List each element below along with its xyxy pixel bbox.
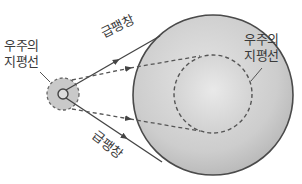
right-horizon-label-line2: 지평선 [244,48,279,64]
left-horizon-label-line2: 지평선 [4,54,39,70]
small-horizon-circle [47,78,79,110]
inner-horizon-circle [174,55,252,133]
inflation-diagram: 우주의 지평선 우주의 지평선 급팽창 급팽창 [0,0,302,184]
right-horizon-label-line1: 우주의 [244,32,279,48]
left-horizon-label-line1: 우주의 [4,38,39,54]
right-horizon-label: 우주의 지평선 [244,32,279,64]
diagram-canvas [0,0,302,184]
left-horizon-label: 우주의 지평선 [4,38,39,70]
initial-point-ring [58,89,68,99]
